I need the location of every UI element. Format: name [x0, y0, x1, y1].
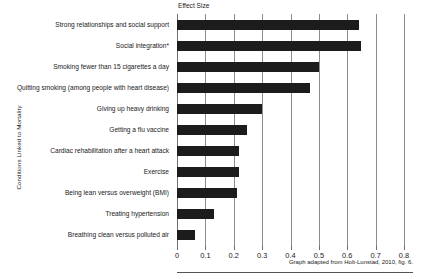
bar	[177, 188, 237, 198]
bar	[177, 125, 247, 135]
category-label: Smoking fewer than 15 cigarettes a day	[53, 63, 169, 70]
source-caption: Graph adapted from Holt-Lunstad, 2010, f…	[289, 259, 413, 265]
category-label: Exercise	[144, 168, 169, 175]
bar	[177, 41, 361, 51]
x-axis-tick	[404, 246, 405, 250]
category-label: Strong relationships and social support	[55, 21, 169, 28]
x-axis-tick	[347, 246, 348, 250]
chart-title: Effect Size	[178, 2, 209, 9]
bar	[177, 209, 214, 219]
gridline	[376, 14, 377, 246]
category-label: Social integration*	[116, 42, 169, 49]
bar	[177, 230, 195, 240]
x-axis-tick	[262, 246, 263, 250]
bar	[177, 146, 239, 156]
chart-figure: Conditions Linked to Mortality Effect Si…	[0, 0, 421, 279]
bar	[177, 20, 359, 30]
category-label: Getting a flu vaccine	[109, 126, 169, 133]
bar	[177, 104, 262, 114]
caption-divider	[177, 272, 413, 273]
category-label: Giving up heavy drinking	[97, 105, 169, 112]
category-label: Quitting smoking (among people with hear…	[17, 84, 169, 91]
x-axis-tick	[376, 246, 377, 250]
x-axis-tick	[177, 246, 178, 250]
bar	[177, 167, 239, 177]
category-label: Being lean versus overweight (BMI)	[65, 189, 169, 196]
plot-area: 00.10.20.30.40.50.60.70.8	[177, 14, 404, 246]
category-label: Cardiac rehabilitation after a heart att…	[50, 147, 169, 154]
category-label: Breathing clean versus polluted air	[68, 231, 169, 238]
x-axis-tick	[205, 246, 206, 250]
bar	[177, 83, 310, 93]
x-axis-tick	[291, 246, 292, 250]
category-label: Treating hypertension	[105, 210, 169, 217]
x-axis-tick	[319, 246, 320, 250]
bar	[177, 62, 319, 72]
gridline	[404, 14, 405, 246]
x-axis-tick	[234, 246, 235, 250]
category-label-list: Strong relationships and social supportS…	[0, 14, 173, 246]
